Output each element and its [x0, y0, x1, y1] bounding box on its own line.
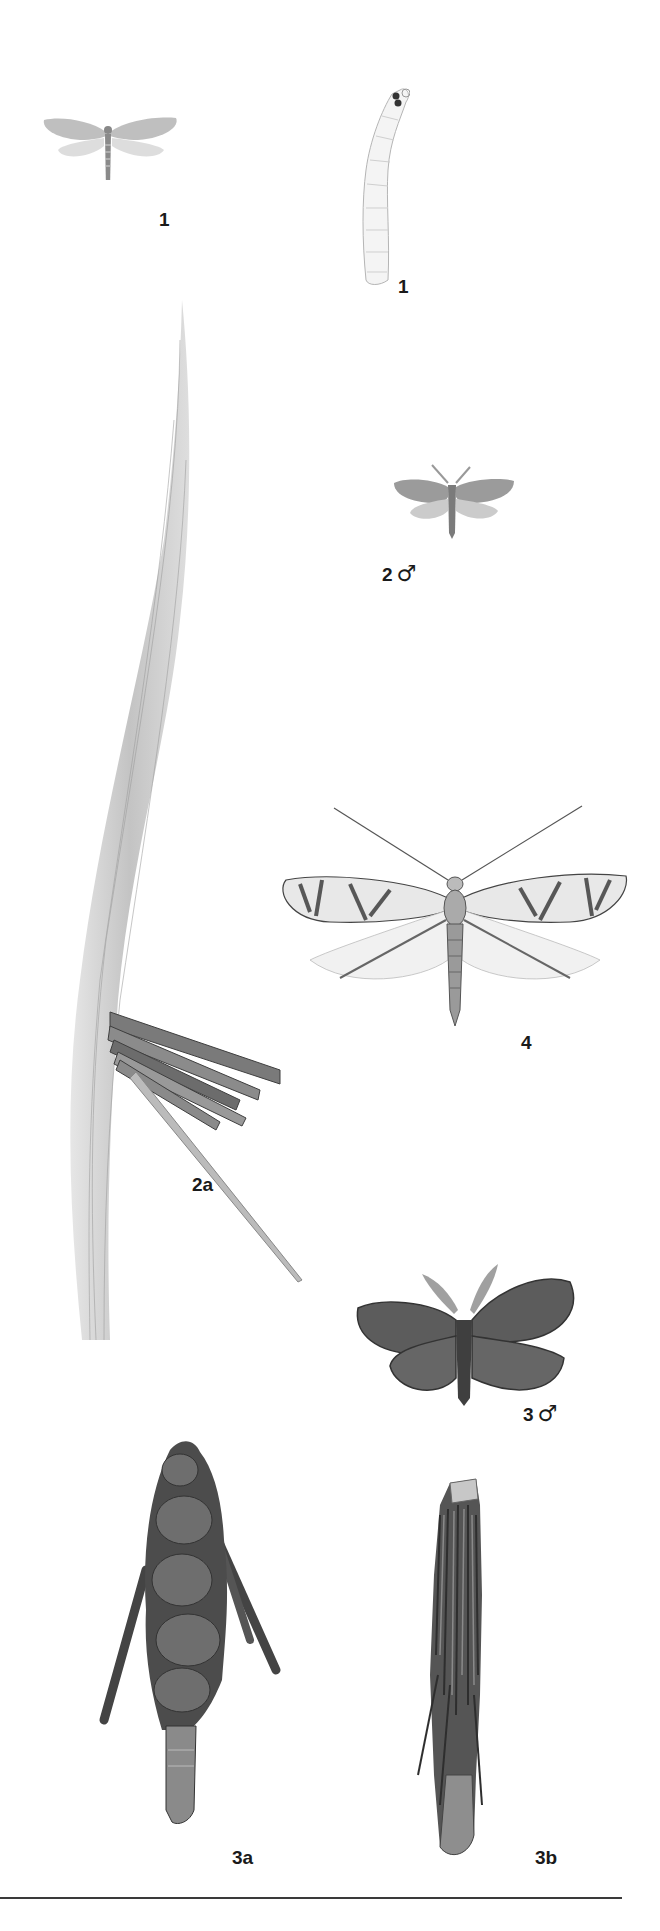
bottom-rule-divider	[0, 1897, 622, 1899]
label-text: 3b	[535, 1847, 557, 1868]
male-symbol-icon: ♂	[397, 561, 417, 586]
label-text: 1	[398, 276, 409, 297]
label-text: 3a	[232, 1847, 253, 1868]
label-text: 4	[521, 1032, 532, 1053]
bagworm-case-3a-illustration	[90, 1430, 310, 1830]
figure-label-1-adult: 1	[159, 210, 170, 229]
larva-1-illustration	[340, 80, 410, 290]
male-symbol-icon: ♂	[538, 1401, 558, 1426]
illustration-plate: 1 1 2♂	[0, 0, 660, 1931]
label-text: 2	[382, 564, 393, 585]
figure-label-1-larva: 1	[398, 277, 409, 296]
figure-label-3b: 3b	[535, 1848, 557, 1867]
moth-2-male-illustration	[390, 455, 530, 545]
label-text: 1	[159, 209, 170, 230]
moth-3-male-illustration	[350, 1250, 580, 1410]
figure-label-4: 4	[521, 1033, 532, 1052]
figure-label-2-male: 2♂	[382, 563, 416, 585]
figure-label-2a: 2a	[192, 1175, 213, 1194]
bagworm-case-3b-illustration	[410, 1475, 520, 1875]
label-text: 2a	[192, 1174, 213, 1195]
label-text: 3	[523, 1404, 534, 1425]
figure-label-3-male: 3♂	[523, 1403, 557, 1425]
moth-1-illustration	[40, 90, 190, 180]
figure-label-3a: 3a	[232, 1848, 253, 1867]
moth-4-illustration	[270, 780, 630, 1040]
